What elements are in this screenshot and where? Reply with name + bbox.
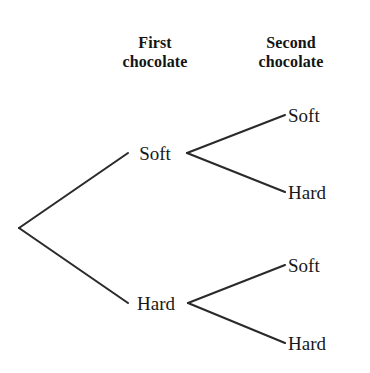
- node-first-hard: Hard: [126, 294, 186, 313]
- branch-hard-to-hard: [188, 303, 285, 343]
- node-second-soft-hard: Hard: [288, 183, 326, 202]
- node-second-soft-soft: Soft: [288, 106, 320, 125]
- branch-hard-to-soft: [188, 265, 285, 303]
- node-second-hard-hard: Hard: [288, 334, 326, 353]
- node-second-hard-soft: Soft: [288, 256, 320, 275]
- tree-diagram-figure: First chocolate Second chocolate Soft Ha…: [0, 0, 370, 373]
- node-first-soft: Soft: [125, 144, 185, 163]
- branch-root-to-soft: [19, 153, 128, 228]
- branch-soft-to-hard: [187, 153, 285, 192]
- branch-soft-to-soft: [187, 115, 285, 153]
- branch-root-to-hard: [19, 228, 128, 303]
